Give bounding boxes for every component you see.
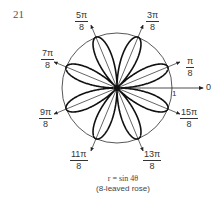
angle-label-numerator: 15π [180,108,198,119]
angle-label-denominator: 8 [45,60,50,70]
angle-label: 5π8 [75,11,88,32]
angle-label: 15π8 [180,108,198,129]
subtitle: (8-leaved rose) [0,184,219,194]
angle-label-denominator: 8 [188,68,193,78]
angle-label: 7π8 [41,49,54,70]
equation: r = sin 4θ [0,174,219,184]
angle-label: 9π8 [39,108,52,129]
angle-label: 11π8 [70,150,88,171]
angle-label-numerator: π [186,57,194,68]
zero-angle-label: 0 [206,82,211,92]
angle-label-denominator: 8 [150,22,155,32]
angle-label: π8 [186,57,194,78]
angle-label-numerator: 13π [143,150,161,161]
angle-label: 3π8 [146,11,159,32]
angle-label-numerator: 9π [39,108,52,119]
angle-label-numerator: 5π [75,11,88,22]
angle-label-denominator: 8 [150,161,155,171]
angle-label-numerator: 3π [146,11,159,22]
angle-label-denominator: 8 [79,22,84,32]
angle-label: 13π8 [143,150,161,171]
origin-dot [114,85,120,91]
unit-label: 1 [172,89,176,98]
angle-label-numerator: 11π [70,150,88,161]
angle-label-numerator: 7π [41,49,54,60]
angle-label-denominator: 8 [187,119,192,129]
angle-label-denominator: 8 [76,161,81,171]
caption: r = sin 4θ (8-leaved rose) [0,174,219,194]
rose-diagram [0,0,219,202]
angle-label-denominator: 8 [43,119,48,129]
